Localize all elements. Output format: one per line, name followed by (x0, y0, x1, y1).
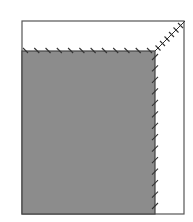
diagram-canvas (0, 0, 193, 222)
folded-panel-shaded (22, 51, 155, 214)
fold-stitch-diagram (0, 0, 193, 222)
